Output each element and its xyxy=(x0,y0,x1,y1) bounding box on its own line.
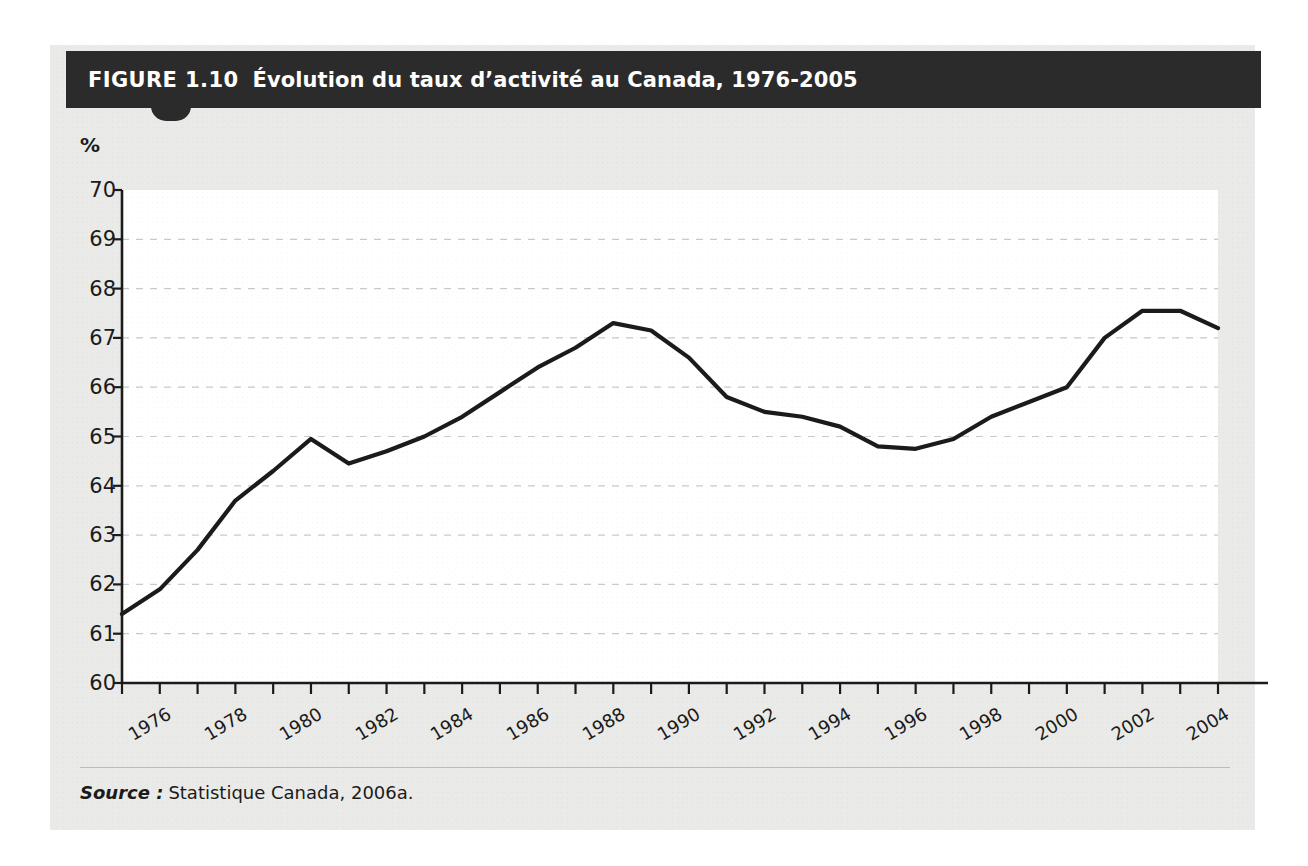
source-label: Source : xyxy=(80,782,163,803)
x-tick-label-1992: 1992 xyxy=(729,703,779,745)
source-line: Source :Statistique Canada, 2006a. xyxy=(80,782,414,803)
x-tick-label-2000: 2000 xyxy=(1032,703,1082,745)
x-tick-label-1980: 1980 xyxy=(276,703,326,745)
x-tick-label-1986: 1986 xyxy=(502,703,552,745)
x-tick-label-1996: 1996 xyxy=(880,703,930,745)
page-root: FIGURE 1.10 Évolution du taux d’activité… xyxy=(0,0,1308,866)
x-tick-label-2004: 2004 xyxy=(1183,703,1233,745)
figure-card: FIGURE 1.10 Évolution du taux d’activité… xyxy=(50,45,1255,830)
source-divider xyxy=(80,767,1230,768)
x-tick-label-1976: 1976 xyxy=(125,703,175,745)
x-tick-label-1990: 1990 xyxy=(654,703,704,745)
chart-container: 6061626364656667686970 19761978198019821… xyxy=(50,45,1255,830)
x-tick-label-1988: 1988 xyxy=(578,703,628,745)
x-tick-label-1978: 1978 xyxy=(200,703,250,745)
x-tick-label-1984: 1984 xyxy=(427,703,477,745)
x-tick-label-1994: 1994 xyxy=(805,703,855,745)
x-tick-label-2002: 2002 xyxy=(1107,703,1157,745)
x-tick-label-1982: 1982 xyxy=(351,703,401,745)
source-text: Statistique Canada, 2006a. xyxy=(168,782,413,803)
x-tick-label-1998: 1998 xyxy=(956,703,1006,745)
x-axis-labels: 1976197819801982198419861988199019921994… xyxy=(50,45,1255,830)
